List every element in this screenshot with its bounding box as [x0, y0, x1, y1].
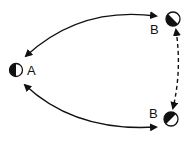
edge-a-b-top — [26, 14, 156, 56]
edge-a-b-bottom — [25, 85, 156, 127]
moon-a-icon — [10, 64, 23, 77]
moon-b-bottom-icon — [164, 112, 178, 126]
label-b-top: B — [150, 23, 159, 36]
moon-b-top-icon — [166, 12, 180, 26]
diagram-canvas: A B B — [0, 0, 190, 144]
label-b-bottom: B — [149, 107, 158, 120]
edge-b-b-dashed — [173, 30, 178, 108]
label-a: A — [27, 64, 36, 77]
